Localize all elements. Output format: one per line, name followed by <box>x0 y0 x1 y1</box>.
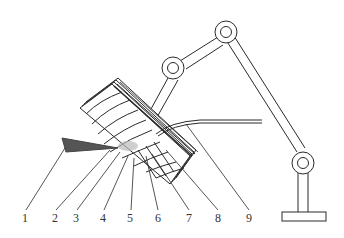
robot-joint-left <box>162 57 184 79</box>
callout-labels: 1 2 3 4 5 6 7 8 9 <box>22 211 252 225</box>
robot-arm-lower-link <box>226 36 305 152</box>
label-2: 2 <box>52 211 58 225</box>
label-3: 3 <box>73 211 79 225</box>
blade-stack-workpiece <box>80 78 198 184</box>
label-6: 6 <box>155 211 161 225</box>
label-1: 1 <box>22 211 28 225</box>
robot-joint-top <box>215 21 237 43</box>
robot-blade-diagram: 1 2 3 4 5 6 7 8 9 <box>0 0 344 238</box>
label-7: 7 <box>186 211 192 225</box>
robot-joint-bottom <box>292 152 314 174</box>
label-5: 5 <box>127 211 133 225</box>
robot-arm-upper-link <box>180 37 223 69</box>
label-9: 9 <box>246 211 252 225</box>
label-8: 8 <box>215 211 221 225</box>
label-4: 4 <box>100 211 106 225</box>
robot-base <box>282 172 326 221</box>
